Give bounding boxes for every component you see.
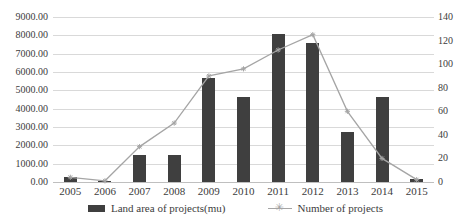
star-marker-2012: [310, 32, 315, 37]
right-axis-tick: 140: [438, 12, 453, 22]
x-axis-tick-2010: 2010: [233, 186, 255, 197]
star-marker-2006: [102, 178, 107, 183]
legend-item-number-of-projects: ✳ Number of projects: [268, 202, 384, 214]
plot-area: [53, 17, 434, 182]
star-marker-2010: [241, 66, 246, 71]
right-axis-tick: 80: [438, 83, 448, 93]
left-axis-tick: 9000.00: [0, 12, 48, 22]
star-marker-2014: [379, 156, 384, 161]
legend-label-land-area: Land area of projects(mu): [111, 202, 226, 214]
x-axis-tick-2011: 2011: [267, 186, 289, 197]
x-axis-tick-2005: 2005: [59, 186, 81, 197]
x-axis-tick-2008: 2008: [163, 186, 185, 197]
left-axis-tick: 1000.00: [0, 159, 48, 169]
star-marker-2011: [276, 47, 281, 52]
legend-item-land-area: Land area of projects(mu): [88, 202, 226, 214]
line-series-swatch-icon: ✳: [268, 204, 292, 213]
star-marker-2005: [68, 175, 73, 180]
bar-series-swatch-icon: [88, 205, 105, 212]
star-marker-2008: [172, 120, 177, 125]
left-axis-tick: 0.00: [0, 177, 48, 187]
x-axis-tick-2015: 2015: [406, 186, 428, 197]
legend-label-number-of-projects: Number of projects: [298, 202, 384, 214]
star-marker-2015: [414, 177, 419, 182]
x-axis-tick-2009: 2009: [198, 186, 220, 197]
right-axis-tick: 120: [438, 36, 453, 46]
x-axis-tick-2006: 2006: [94, 186, 116, 197]
left-axis-tick: 8000.00: [0, 30, 48, 40]
left-axis-tick: 6000.00: [0, 67, 48, 77]
right-axis-tick: 40: [438, 130, 448, 140]
x-axis-tick-2007: 2007: [129, 186, 151, 197]
right-axis-tick: 0: [438, 177, 443, 187]
x-axis-tick-2013: 2013: [336, 186, 358, 197]
left-axis-tick: 7000.00: [0, 49, 48, 59]
star-marker-icon: ✳: [275, 201, 284, 215]
right-axis-tick: 20: [438, 153, 448, 163]
combo-chart: 9000.008000.007000.006000.005000.004000.…: [0, 0, 471, 221]
left-axis-tick: 4000.00: [0, 104, 48, 114]
x-axis-tick-2014: 2014: [371, 186, 393, 197]
left-axis-tick: 2000.00: [0, 140, 48, 150]
x-axis-tick-2012: 2012: [302, 186, 324, 197]
line-series-number-of-projects: [53, 17, 434, 182]
star-marker-2013: [345, 109, 350, 114]
left-axis-tick: 5000.00: [0, 85, 48, 95]
star-marker-2009: [206, 73, 211, 78]
left-axis-tick: 3000.00: [0, 122, 48, 132]
line-path: [70, 35, 416, 181]
chart-legend: Land area of projects(mu) ✳ Number of pr…: [0, 200, 471, 216]
star-marker-2007: [137, 144, 142, 149]
right-axis-tick: 60: [438, 106, 448, 116]
right-axis-tick: 100: [438, 59, 453, 69]
x-axis-line: [53, 182, 434, 183]
